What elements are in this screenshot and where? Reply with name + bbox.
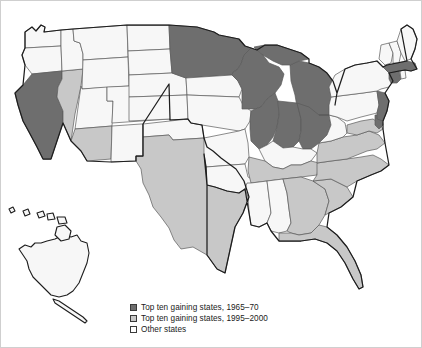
state-SD[interactable]: South Dakota xyxy=(128,49,172,75)
state-HI-3[interactable]: Hawaii xyxy=(37,211,45,218)
map-legend: Top ten gaining states, 1965–70 Top ten … xyxy=(130,302,310,335)
state-RI[interactable]: Rhode Island xyxy=(400,70,406,79)
state-WY[interactable]: Wyoming xyxy=(82,57,129,89)
state-ND[interactable]: North Dakota xyxy=(127,25,170,51)
legend-swatch-dark xyxy=(130,304,137,311)
legend-item-gaining-1965-70[interactable]: Top ten gaining states, 1965–70 xyxy=(130,302,310,313)
legend-label-gaining-1965-70: Top ten gaining states, 1965–70 xyxy=(141,302,259,313)
us-map: Washington Oregon California Nevada Idah… xyxy=(1,1,422,348)
legend-item-other[interactable]: Other states xyxy=(130,324,310,335)
legend-swatch-light xyxy=(130,315,137,322)
state-HI-4[interactable]: Hawaii xyxy=(47,213,55,220)
state-AK[interactable]: Alaska xyxy=(19,235,89,297)
state-IA[interactable]: Iowa xyxy=(186,75,242,97)
legend-label-gaining-1995-2000: Top ten gaining states, 1995–2000 xyxy=(141,313,268,324)
state-MS[interactable]: Mississippi xyxy=(245,181,271,227)
state-OR[interactable]: Oregon xyxy=(22,46,62,74)
legend-swatch-white xyxy=(130,326,137,333)
legend-label-other: Other states xyxy=(141,324,186,335)
state-HI-5[interactable]: Hawaii xyxy=(57,217,67,224)
state-NJ[interactable]: New Jersey xyxy=(377,91,389,121)
state-AK-aleutians[interactable]: Alaska xyxy=(53,299,87,323)
state-HI-1[interactable]: Hawaii xyxy=(9,207,15,213)
state-FL[interactable]: Florida xyxy=(279,225,363,289)
legend-item-gaining-1995-2000[interactable]: Top ten gaining states, 1995–2000 xyxy=(130,313,310,324)
state-HI-2[interactable]: Hawaii xyxy=(23,209,30,216)
state-AZ[interactable]: Arizona xyxy=(71,126,112,161)
state-NE[interactable]: Nebraska xyxy=(129,73,187,97)
state-KS[interactable]: Kansas xyxy=(129,95,188,121)
map-figure: Washington Oregon California Nevada Idah… xyxy=(0,0,422,348)
